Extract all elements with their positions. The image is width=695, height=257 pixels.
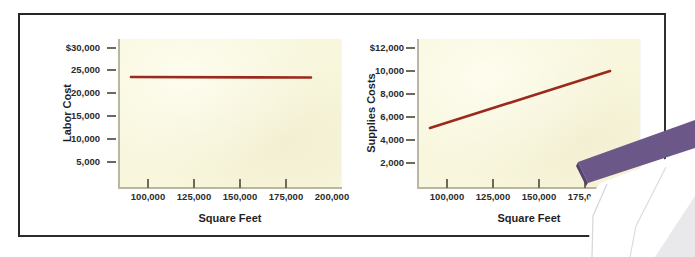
x-axis-line-labor bbox=[118, 187, 342, 189]
y-tick-label-supply-12000: $12,000 bbox=[348, 43, 404, 53]
x-tick-label-supply-100000: 100,000 bbox=[430, 192, 464, 202]
y-axis-title-supplies-costs: Supplies Costs bbox=[365, 68, 377, 158]
x-tick-label-labor-100000: 100,000 bbox=[131, 192, 165, 202]
figure-root: $30,000 25,000 20,000 15,000 10,000 5,00… bbox=[0, 0, 695, 257]
y-tick-label-labor-30000: $30,000 bbox=[34, 43, 100, 53]
plot-area-labor-cost bbox=[119, 39, 341, 187]
y-tick-mark bbox=[406, 47, 415, 49]
chart-supplies-costs: $12,000 10,000 8,000 6,000 4,000 2,000 1… bbox=[348, 15, 658, 239]
x-tick-label-labor-175000: 175,000 bbox=[269, 192, 303, 202]
y-tick-mark bbox=[107, 92, 116, 94]
y-axis-line-labor bbox=[118, 39, 120, 189]
x-axis-title-labor: Square Feet bbox=[199, 212, 262, 224]
y-tick-mark bbox=[107, 69, 116, 71]
y-tick-mark bbox=[107, 47, 116, 49]
x-tick-label-supply-125000: 125,000 bbox=[476, 192, 510, 202]
y-tick-mark bbox=[406, 116, 415, 118]
y-tick-mark bbox=[107, 161, 116, 163]
x-tick-mark bbox=[492, 179, 494, 188]
y-tick-mark bbox=[406, 70, 415, 72]
x-tick-mark bbox=[584, 179, 586, 188]
x-tick-label-supply-175000: 175,000 bbox=[568, 192, 602, 202]
x-tick-mark bbox=[446, 179, 448, 188]
y-tick-label-labor-5000: 5,000 bbox=[34, 157, 100, 167]
page-frame: $30,000 25,000 20,000 15,000 10,000 5,00… bbox=[18, 13, 666, 237]
y-tick-mark bbox=[406, 162, 415, 164]
y-tick-label-supply-2000: 2,000 bbox=[348, 158, 404, 168]
x-tick-mark bbox=[538, 179, 540, 188]
x-tick-mark bbox=[147, 179, 149, 188]
x-tick-mark bbox=[193, 179, 195, 188]
y-tick-mark bbox=[406, 139, 415, 141]
x-tick-label-labor-125000: 125,000 bbox=[177, 192, 211, 202]
y-tick-mark bbox=[406, 93, 415, 95]
y-tick-label-labor-25000: 25,000 bbox=[34, 65, 100, 75]
y-axis-line-supply bbox=[417, 39, 419, 189]
y-axis-title-labor-cost: Labor Cost bbox=[61, 78, 73, 148]
y-tick-mark bbox=[107, 115, 116, 117]
chart-labor-cost: $30,000 25,000 20,000 15,000 10,000 5,00… bbox=[34, 15, 354, 239]
plot-area-supplies-costs bbox=[418, 39, 640, 187]
x-tick-label-supply-150000: 150,000 bbox=[522, 192, 556, 202]
x-tick-mark bbox=[239, 179, 241, 188]
x-axis-line-supply bbox=[417, 187, 641, 189]
x-axis-title-supply: Square Feet bbox=[498, 212, 561, 224]
x-tick-mark bbox=[285, 179, 287, 188]
y-tick-mark bbox=[107, 138, 116, 140]
x-tick-label-labor-150000: 150,000 bbox=[223, 192, 257, 202]
x-tick-label-labor-200000: 200,000 bbox=[315, 192, 349, 202]
